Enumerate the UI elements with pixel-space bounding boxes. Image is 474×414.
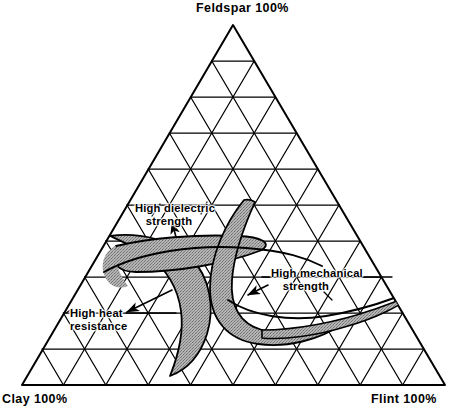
region-label-line2: resistance (70, 320, 127, 333)
region-label-high-dielectric-strength: High dielectric strength (135, 202, 215, 227)
arrow-heat (127, 290, 172, 312)
region-label-line1: High dielectric (135, 202, 215, 215)
ternary-triangle-svg (0, 0, 474, 414)
leader-mechanical-tick (324, 292, 332, 300)
corner-label-flint: Flint 100% (371, 392, 437, 406)
region-label-line1: High mechanical (271, 267, 363, 280)
region-label-line1: High heat (70, 307, 127, 320)
corner-label-feldspar: Feldspar 100% (196, 1, 289, 15)
corner-label-clay: Clay 100% (2, 392, 67, 406)
region-label-high-heat-resistance: High heat resistance (70, 307, 127, 332)
region-label-line2: strength (271, 280, 363, 293)
arrow-mechanical (248, 285, 268, 295)
region-label-line2: strength (135, 215, 215, 228)
ternary-diagram: Feldspar 100% Clay 100% Flint 100% High … (0, 0, 474, 414)
region-label-high-mechanical-strength: High mechanical strength (271, 267, 363, 292)
